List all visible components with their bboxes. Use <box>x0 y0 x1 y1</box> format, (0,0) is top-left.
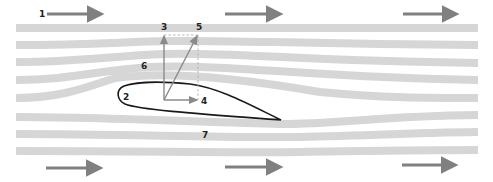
label-lift: 3 <box>161 22 167 32</box>
streamline-8 <box>16 150 478 152</box>
label-resultant: 5 <box>196 22 202 32</box>
streamline-2 <box>16 41 478 45</box>
label-upper-flow: 6 <box>141 61 147 71</box>
airfoil-lift-diagram: 1 2 3 4 5 6 7 <box>0 0 493 182</box>
streamlines <box>16 28 478 152</box>
streamline-7 <box>16 132 478 137</box>
streamline-6 <box>16 115 478 124</box>
label-drag: 4 <box>201 96 207 106</box>
airfoil <box>118 82 281 120</box>
streamline-3 <box>16 54 478 63</box>
label-flow-direction: 1 <box>39 9 45 19</box>
label-airfoil: 2 <box>123 92 129 102</box>
label-lower-flow: 7 <box>202 130 208 140</box>
bottom-flow-arrows <box>46 165 442 168</box>
